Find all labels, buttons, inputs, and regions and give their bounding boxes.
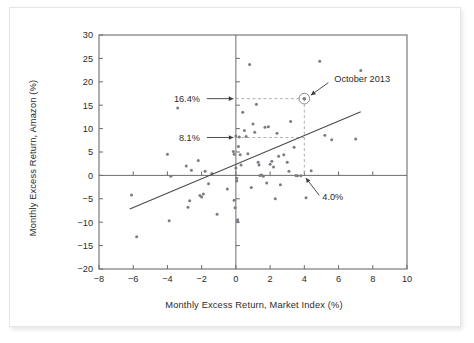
axis-tick-labels: −8−6−4−20246810−20−15−10−5051015202530 — [77, 30, 412, 284]
annotation-8-1-arrowhead — [229, 135, 234, 140]
data-point — [202, 193, 205, 196]
x-tick-label: −6 — [128, 274, 138, 284]
data-point — [240, 164, 243, 167]
data-point — [277, 155, 280, 158]
data-point — [166, 153, 169, 156]
data-point — [207, 182, 210, 185]
x-tick-label: 10 — [402, 274, 412, 284]
data-point — [275, 132, 278, 135]
y-tick-label: −10 — [77, 218, 93, 228]
data-point — [274, 197, 277, 200]
data-point — [241, 111, 244, 114]
y-tick-label: 10 — [83, 124, 93, 134]
data-point — [216, 213, 219, 216]
highlight-data-point — [303, 97, 306, 100]
data-point — [289, 120, 292, 123]
data-point — [176, 107, 179, 110]
x-tick-label: −8 — [94, 274, 104, 284]
data-point — [130, 194, 133, 197]
data-point — [257, 161, 260, 164]
data-point — [262, 175, 265, 178]
data-point — [255, 103, 258, 106]
data-point — [310, 169, 313, 172]
data-point — [299, 174, 302, 177]
y-tick-label: −20 — [77, 264, 93, 274]
x-tick-label: 6 — [336, 274, 341, 284]
data-point — [238, 136, 241, 139]
data-point — [234, 166, 237, 169]
data-point — [269, 163, 272, 166]
data-point — [279, 183, 282, 186]
data-point — [293, 146, 296, 149]
y-tick-label: 15 — [83, 101, 93, 111]
data-point — [246, 152, 249, 155]
y-tick-label: −15 — [77, 241, 93, 251]
annotation-16-4-arrowhead — [229, 96, 234, 101]
y-tick-label: 0 — [88, 171, 93, 181]
data-point — [354, 137, 357, 140]
y-tick-label: −5 — [83, 194, 93, 204]
annotation-label-4-0: 4.0% — [322, 192, 343, 202]
data-point — [287, 170, 290, 173]
data-point — [318, 60, 321, 63]
data-point — [245, 135, 248, 138]
data-point — [263, 126, 266, 129]
data-point — [286, 161, 289, 164]
y-tick-label: 30 — [83, 30, 93, 40]
y-tick-label: 5 — [88, 147, 93, 157]
data-point — [239, 153, 242, 156]
data-point — [233, 153, 236, 156]
scatter-points — [130, 60, 362, 239]
data-point — [235, 177, 238, 180]
data-point — [359, 69, 362, 72]
data-point — [197, 159, 200, 162]
data-point — [233, 199, 236, 202]
x-tick-label: 4 — [302, 274, 307, 284]
data-point — [185, 165, 188, 168]
y-tick-label: 25 — [83, 54, 93, 64]
annotation-4-0-arrowhead — [306, 178, 311, 183]
data-point — [190, 169, 193, 172]
data-point — [169, 175, 172, 178]
data-point — [200, 195, 203, 198]
y-axis-title: Monthly Excess Return, Amazon (%) — [28, 80, 38, 236]
data-point — [257, 164, 260, 167]
annotation-layer: 16.4%8.1%4.0%October 2013 — [174, 74, 390, 203]
data-point — [186, 206, 189, 209]
data-point — [237, 145, 240, 148]
annotation-label-8-1: 8.1% — [179, 133, 200, 143]
data-point — [296, 174, 299, 177]
figure-panel: −8−6−4−20246810−20−15−10−5051015202530 1… — [9, 7, 461, 327]
data-point — [252, 122, 255, 125]
data-point — [270, 160, 273, 163]
x-tick-label: −2 — [196, 274, 206, 284]
x-tick-label: 2 — [268, 274, 273, 284]
x-tick-label: 8 — [370, 274, 375, 284]
data-point — [135, 235, 138, 238]
data-point — [226, 187, 229, 190]
data-point — [168, 219, 171, 222]
annotation-label-16-4: 16.4% — [174, 94, 200, 104]
scatter-chart: −8−6−4−20246810−20−15−10−5051015202530 1… — [10, 8, 460, 326]
data-point — [234, 135, 237, 138]
data-point — [330, 138, 333, 141]
data-point — [267, 125, 270, 128]
annotation-label-october-2013: October 2013 — [334, 74, 390, 84]
data-point — [188, 199, 191, 202]
highlight-marker-october-2013 — [299, 93, 310, 104]
data-point — [243, 129, 246, 132]
data-point — [323, 134, 326, 137]
y-tick-label: 20 — [83, 77, 93, 87]
data-point — [232, 150, 235, 153]
annotation-october-2013-arrowhead — [311, 91, 316, 96]
data-point — [250, 186, 253, 189]
data-point — [234, 206, 237, 209]
data-point — [236, 220, 239, 223]
data-point — [265, 181, 268, 184]
data-point — [305, 196, 308, 199]
x-axis-title: Monthly Excess Return, Market Index (%) — [165, 300, 342, 310]
data-point — [282, 153, 285, 156]
x-tick-label: 0 — [233, 274, 238, 284]
data-point — [272, 165, 275, 168]
data-point — [248, 63, 251, 66]
